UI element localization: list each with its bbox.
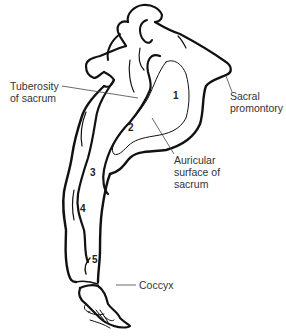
segment-number-5: 5 — [92, 255, 98, 265]
label-sacral-promontory: Sacral promontory — [230, 90, 283, 114]
segment-number-3: 3 — [90, 168, 96, 178]
label-tuberosity-of-sacrum: Tuberosity of sacrum — [10, 80, 59, 104]
auricular-surface-outline — [112, 61, 189, 155]
segment-number-4: 4 — [80, 204, 86, 214]
posterior-border — [63, 86, 104, 282]
label-line: of sacrum — [10, 92, 59, 104]
label-line: surface of — [174, 166, 220, 178]
label-line: Tuberosity — [10, 80, 59, 92]
leader-tuberosity — [62, 86, 138, 98]
label-auricular-surface: Auricular surface of sacrum — [174, 154, 220, 190]
label-coccyx: Coccyx — [139, 279, 173, 291]
segment-number-2: 2 — [128, 123, 134, 133]
label-line: Sacral — [230, 90, 283, 102]
label-line: Coccyx — [139, 279, 173, 291]
segment-number-1: 1 — [173, 91, 179, 101]
superior-articular-process — [128, 5, 162, 22]
label-line: sacrum — [174, 178, 220, 190]
anterior-border — [98, 174, 110, 282]
sacral-base-outline — [155, 22, 231, 74]
label-line: promontory — [230, 102, 283, 114]
label-line: Auricular — [174, 154, 220, 166]
